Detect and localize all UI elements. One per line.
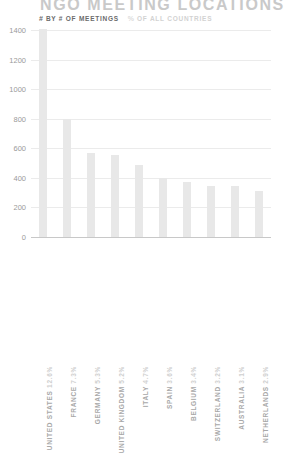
y-axis-tick-label: 0	[22, 233, 26, 242]
bar[interactable]	[135, 165, 143, 237]
y-axis-tick-label: 1400	[9, 26, 26, 35]
x-axis-category-label: UNITED KINGDOM 5.2%	[118, 366, 125, 453]
y-axis-tick-label: 400	[13, 173, 26, 182]
x-axis-labels: UNITED STATES 12.6%FRANCE 7.3%GERMANY 5.…	[31, 252, 271, 369]
bar[interactable]	[39, 29, 47, 237]
bar-slot	[247, 2, 271, 237]
x-axis-category-label: ITALY 4.7%	[142, 366, 149, 407]
y-axis-tick-label: 1200	[9, 55, 26, 64]
bar[interactable]	[231, 186, 239, 237]
category-name: SWITZERLAND	[214, 384, 221, 442]
x-axis-category-label: GERMANY 5.3%	[94, 366, 101, 424]
category-name: FRANCE	[70, 384, 77, 418]
bar[interactable]	[207, 186, 215, 237]
bar-slot	[199, 2, 223, 237]
y-axis-tick-label: 1000	[9, 85, 26, 94]
category-percent: 3.4%	[190, 366, 197, 384]
bar[interactable]	[111, 155, 119, 237]
category-percent: 3.2%	[214, 366, 221, 384]
category-percent: 3.1%	[238, 366, 245, 384]
bar-slot	[175, 2, 199, 237]
x-axis-category-label: NETHERLANDS 2.9%	[262, 366, 269, 443]
bar[interactable]	[183, 182, 191, 237]
bar-slot	[103, 2, 127, 237]
category-name: GERMANY	[94, 384, 101, 425]
category-name: UNITED STATES	[46, 388, 53, 450]
bar-series	[31, 2, 271, 237]
bar-slot	[79, 2, 103, 237]
category-percent: 5.2%	[118, 366, 125, 384]
category-percent: 3.6%	[166, 366, 173, 384]
category-name: NETHERLANDS	[262, 384, 269, 443]
category-name: AUSTRALIA	[238, 384, 245, 430]
x-axis-category-label: FRANCE 7.3%	[70, 366, 77, 417]
category-name: ITALY	[142, 384, 149, 408]
bar[interactable]	[63, 119, 71, 237]
bar-slot	[127, 2, 151, 237]
category-percent: 5.3%	[94, 366, 101, 384]
x-axis-category-label: BELGIUM 3.4%	[190, 366, 197, 421]
axis-baseline	[31, 237, 271, 238]
bar[interactable]	[255, 191, 263, 237]
bar-slot	[151, 2, 175, 237]
x-axis-category-label: SWITZERLAND 3.2%	[214, 366, 221, 441]
bar[interactable]	[159, 178, 167, 237]
x-axis-category-label: AUSTRALIA 3.1%	[238, 366, 245, 430]
x-axis-category-label: UNITED STATES 12.6%	[46, 366, 53, 450]
category-percent: 7.3%	[70, 366, 77, 384]
x-axis-category-label: SPAIN 3.6%	[166, 366, 173, 409]
category-percent: 4.7%	[142, 366, 149, 384]
y-axis-tick-label: 200	[13, 203, 26, 212]
bar-slot	[31, 2, 55, 237]
category-name: SPAIN	[166, 384, 173, 409]
bar[interactable]	[87, 153, 95, 237]
category-percent: 2.9%	[262, 366, 269, 384]
plot-area: 0200400600800100012001400	[31, 30, 271, 237]
bar-slot	[223, 2, 247, 237]
y-axis-tick-label: 600	[13, 144, 26, 153]
category-percent: 12.6%	[46, 366, 53, 388]
y-axis-tick-label: 800	[13, 114, 26, 123]
bar-slot	[55, 2, 79, 237]
category-name: BELGIUM	[190, 384, 197, 421]
category-name: UNITED KINGDOM	[118, 384, 125, 453]
